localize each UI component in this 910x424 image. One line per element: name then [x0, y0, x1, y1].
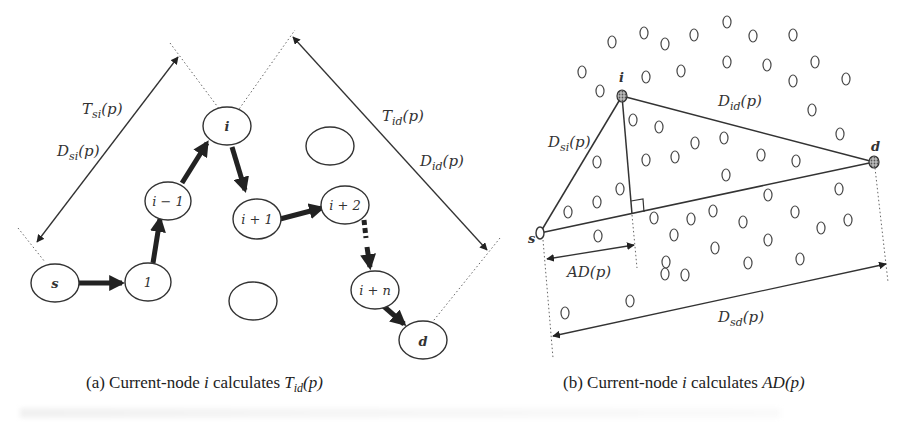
s-i-edge	[540, 96, 622, 233]
panel-b-labels: s i d Dsi(p) Did(p) AD(p) Dsd(p)	[528, 70, 880, 329]
right-angle-mark	[631, 199, 644, 212]
node-i-plus-n-label: i + n	[359, 283, 391, 298]
s-d-edge	[540, 162, 874, 233]
node-i-plus-2-label: i + 2	[329, 198, 361, 213]
tid-label: Tid(p)	[382, 107, 424, 128]
caption-a: (a) Current-node i calculates Tid(p)	[86, 373, 323, 396]
ad-label: AD(p)	[565, 263, 611, 281]
perpendicular-line	[622, 96, 632, 214]
node-1-label: 1	[144, 275, 152, 290]
node-i-plus-1-label: i + 1	[241, 212, 273, 227]
node-s-label: s	[528, 231, 536, 246]
node-i	[617, 90, 627, 102]
did-label: Did(p)	[717, 92, 762, 113]
caption-b: (b) Current-node i calculates AD(p)	[563, 373, 805, 393]
figure: s 1 i − 1 i i + 1 i + 2 i + n d Tsi(p) D…	[0, 0, 910, 424]
tsi-label: Tsi(p)	[82, 100, 123, 121]
did-label: Did(p)	[419, 152, 464, 173]
dsi-label: Dsi(p)	[547, 133, 591, 154]
node-d-label: d	[871, 139, 880, 154]
panel-b	[536, 16, 888, 358]
dsi-label: Dsi(p)	[56, 142, 100, 163]
dsd-label: Dsd(p)	[717, 308, 764, 329]
idle-node	[306, 127, 354, 165]
node-s-label: s	[51, 276, 59, 291]
node-d-label: d	[418, 334, 427, 349]
node-d	[869, 156, 879, 168]
node-i-minus-1-label: i − 1	[152, 194, 184, 209]
idle-node	[229, 282, 277, 320]
node-i-label: i	[225, 119, 230, 134]
node-s	[536, 227, 544, 239]
panel-a	[18, 30, 500, 359]
faint-cutoff-text	[20, 408, 780, 418]
ad-dimension-arrow	[547, 245, 634, 259]
node-i-label: i	[619, 70, 624, 85]
